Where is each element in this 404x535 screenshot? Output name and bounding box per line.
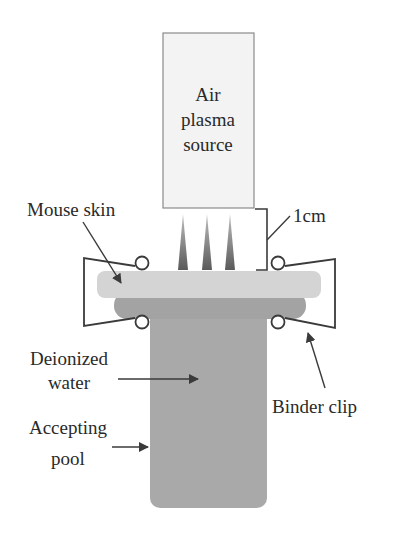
deionized-water-label-line1: Deionized: [30, 348, 109, 369]
binder-clip-arrow: [308, 333, 325, 388]
plasma-jet-icon: [225, 214, 235, 270]
distance-bracket: [255, 209, 267, 270]
distance-label: 1cm: [293, 205, 326, 226]
source-label-line2: plasma: [181, 109, 235, 130]
source-label-line3: source: [183, 134, 233, 155]
accepting-pool: [150, 300, 267, 508]
plasma-jet-icon: [202, 214, 212, 270]
source-label-line1: Air: [195, 84, 221, 105]
plasma-jets: [178, 214, 235, 270]
deionized-water-label-line2: water: [48, 372, 91, 393]
mouse-skin-label: Mouse skin: [27, 199, 116, 220]
experimental-setup-diagram: Air plasma source 1cm Mouse skin Deioniz…: [0, 0, 404, 535]
accepting-pool-label-line2: pool: [51, 448, 85, 469]
binder-clip-label: Binder clip: [272, 396, 357, 417]
mouse-skin: [97, 271, 321, 298]
distance-leader-line: [267, 216, 290, 240]
plasma-jet-icon: [178, 214, 188, 270]
accepting-pool-label-line1: Accepting: [29, 417, 108, 438]
